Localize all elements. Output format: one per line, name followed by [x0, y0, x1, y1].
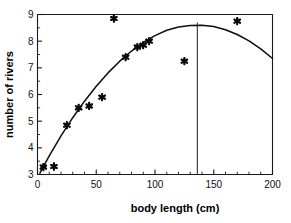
y-axis-tick-label: 5 — [28, 116, 34, 127]
x-axis-title: body length (cm) — [131, 202, 220, 214]
y-axis-tick-label: 9 — [28, 9, 34, 20]
y-axis-tick-label: 6 — [28, 89, 34, 100]
data-point-marker — [99, 94, 105, 100]
y-axis-title: number of rivers — [3, 51, 15, 138]
fitted-curve — [40, 25, 273, 173]
plot-frame — [38, 15, 273, 175]
y-axis-tick-label: 7 — [28, 62, 34, 73]
scatter-plot-svg: 3456789050100150200body length (cm)numbe… — [0, 0, 291, 223]
x-axis-tick-label: 50 — [91, 179, 103, 190]
data-point-marker — [86, 103, 92, 109]
x-axis-tick-label: 100 — [147, 179, 164, 190]
data-point-marker — [51, 163, 57, 169]
chart-figure: 3456789050100150200body length (cm)numbe… — [0, 0, 291, 223]
data-point-marker — [146, 38, 152, 44]
data-point-marker — [140, 42, 146, 48]
data-point-marker — [182, 58, 188, 64]
x-axis-tick-label: 0 — [35, 179, 41, 190]
x-axis-tick-label: 150 — [205, 179, 222, 190]
data-point-marker — [111, 15, 117, 21]
y-axis-tick-label: 3 — [28, 169, 34, 180]
y-axis-tick-label: 4 — [28, 142, 34, 153]
x-axis-tick-label: 200 — [264, 179, 281, 190]
y-axis-tick-label: 8 — [28, 36, 34, 47]
data-point-marker — [234, 18, 240, 24]
